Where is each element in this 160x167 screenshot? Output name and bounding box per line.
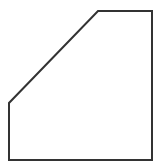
pentagon-shape	[9, 11, 152, 160]
diagram-canvas	[0, 0, 160, 167]
